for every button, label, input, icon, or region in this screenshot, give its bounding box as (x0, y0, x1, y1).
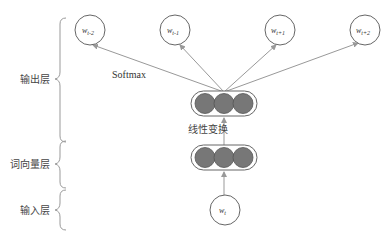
input-layer-label: 输入层 (20, 204, 50, 216)
output-node-t-2: wt-2 (75, 15, 105, 45)
word-vector-pill (191, 145, 257, 170)
output-layer-label: 输出层 (20, 73, 50, 85)
softmax-label: Softmax (112, 69, 146, 80)
word-vector-layer-brace (55, 141, 66, 188)
skip-gram-diagram: 输出层 词向量层 输入层 Softmax wt-2 wt-1 wt+1 wt+2… (0, 0, 385, 236)
output-node-t+2: wt+2 (350, 15, 380, 45)
upper-vector-pill (191, 91, 257, 116)
input-node-t: wt (210, 195, 240, 225)
output-node-t-1: wt-1 (160, 15, 190, 45)
linear-transform-label: 线性变换 (188, 123, 228, 135)
word-vector-layer-label: 词向量层 (10, 158, 50, 170)
input-layer-brace (55, 190, 66, 230)
output-layer-brace (55, 18, 66, 142)
output-arrows (93, 43, 358, 92)
output-node-t+1: wt+1 (265, 15, 295, 45)
